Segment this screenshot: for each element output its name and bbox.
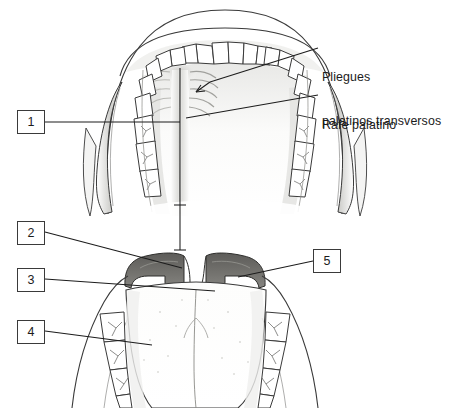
callout-box-4[interactable]: 4: [17, 320, 45, 344]
callout-box-1[interactable]: 1: [17, 110, 45, 134]
label-pliegues-line1: Pliegues: [322, 70, 441, 85]
label-rafe-line1: Rafe palatino: [322, 118, 396, 133]
callout-box-2[interactable]: 2: [17, 221, 45, 245]
lower-jaw-group: [72, 253, 318, 408]
tongue-underside: [126, 282, 266, 408]
callout-number-2: 2: [28, 227, 35, 240]
label-rafe-palatino: Rafe palatino: [322, 89, 396, 162]
leader-line-2: [45, 232, 182, 268]
palate-bottom-fade: [150, 200, 300, 218]
callout-box-5[interactable]: 5: [313, 249, 341, 273]
callout-box-3[interactable]: 3: [17, 268, 45, 292]
callout-number-5: 5: [324, 255, 331, 268]
callout-number-4: 4: [28, 326, 35, 339]
callout-number-1: 1: [28, 116, 35, 129]
figure-canvas: Pliegues palatinos transversos Rafe pala…: [0, 0, 450, 408]
callout-number-3: 3: [28, 274, 35, 287]
left-cheek-edge: [83, 128, 96, 216]
